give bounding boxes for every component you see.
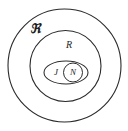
- set-label-universe: ℜ: [30, 21, 42, 36]
- set-label-natural: N: [69, 67, 77, 77]
- euler-diagram-canvas: ℜ R J N: [0, 0, 128, 131]
- set-label-rational: R: [65, 39, 72, 50]
- venn-diagram-svg: ℜ R J N: [0, 0, 128, 131]
